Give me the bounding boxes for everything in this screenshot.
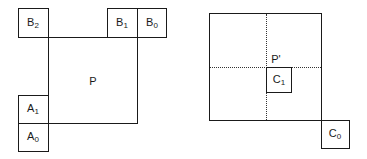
label-p: P [89, 75, 96, 87]
label-b1: B1 [116, 16, 128, 30]
label-c0: C0 [329, 127, 341, 141]
label-c1: C1 [273, 73, 285, 87]
label-p-prime: P' [271, 53, 280, 65]
label-a0: A0 [27, 130, 39, 144]
label-b0: B0 [146, 16, 158, 30]
label-a1: A1 [27, 102, 39, 116]
label-b2: B2 [27, 16, 39, 30]
